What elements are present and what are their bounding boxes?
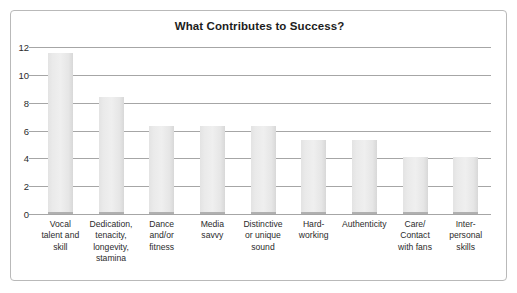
- y-tick-label-6: 6: [24, 125, 29, 136]
- bar-9: [453, 157, 478, 214]
- category-label-7: Authenticity: [339, 219, 390, 230]
- category-label-line: Dance: [136, 219, 187, 230]
- bar-4: [200, 126, 225, 214]
- category-label-line: Hard-: [288, 219, 339, 230]
- category-label-line: personal: [440, 230, 491, 241]
- category-label-line: skill: [35, 242, 86, 253]
- y-tick-label-12: 12: [18, 42, 29, 53]
- category-label-line: Dedication,: [86, 219, 137, 230]
- plot-area: 024681012: [35, 47, 491, 214]
- category-label-3: Danceand/orfitness: [136, 219, 187, 253]
- y-tick-label-8: 8: [24, 97, 29, 108]
- category-label-line: Care/: [390, 219, 441, 230]
- category-label-4: Mediasavvy: [187, 219, 238, 242]
- bars-group: [35, 47, 491, 214]
- y-tick-label-0: 0: [24, 209, 29, 220]
- bar-6: [301, 140, 326, 214]
- category-label-line: working: [288, 230, 339, 241]
- category-label-line: longevity,: [86, 242, 137, 253]
- category-label-9: Inter-personalskills: [440, 219, 491, 253]
- bar-5: [251, 126, 276, 214]
- category-label-line: fitness: [136, 242, 187, 253]
- category-label-2: Dedication,tenacity,longevity,stamina: [86, 219, 137, 265]
- category-label-line: and/or: [136, 230, 187, 241]
- y-tick-label-4: 4: [24, 153, 29, 164]
- y-tick-label-2: 2: [24, 181, 29, 192]
- y-tick-label-10: 10: [18, 69, 29, 80]
- category-label-6: Hard-working: [288, 219, 339, 242]
- category-label-line: talent and: [35, 230, 86, 241]
- category-label-1: Vocaltalent andskill: [35, 219, 86, 253]
- category-label-line: stamina: [86, 253, 137, 264]
- y-tick-mark-0: [29, 214, 35, 215]
- category-label-line: with fans: [390, 242, 441, 253]
- category-label-line: sound: [238, 242, 289, 253]
- category-label-line: Distinctive: [238, 219, 289, 230]
- bar-8: [403, 157, 428, 214]
- bar-3: [149, 126, 174, 214]
- category-label-line: Inter-: [440, 219, 491, 230]
- category-label-line: or unique: [238, 230, 289, 241]
- category-label-line: skills: [440, 242, 491, 253]
- category-label-line: Media: [187, 219, 238, 230]
- category-label-line: Vocal: [35, 219, 86, 230]
- bar-2: [99, 97, 124, 214]
- category-label-5: Distinctiveor uniquesound: [238, 219, 289, 253]
- x-axis-category-labels: Vocaltalent andskillDedication,tenacity,…: [35, 219, 491, 277]
- category-label-line: Authenticity: [339, 219, 390, 230]
- bar-7: [352, 140, 377, 214]
- gridline-0: 0: [35, 214, 491, 215]
- chart-title: What Contributes to Success?: [11, 20, 508, 32]
- chart-frame: What Contributes to Success? 024681012 V…: [10, 10, 507, 281]
- category-label-line: savvy: [187, 230, 238, 241]
- bar-1: [48, 53, 73, 214]
- category-label-line: Contact: [390, 230, 441, 241]
- category-label-8: Care/Contactwith fans: [390, 219, 441, 253]
- category-label-line: tenacity,: [86, 230, 137, 241]
